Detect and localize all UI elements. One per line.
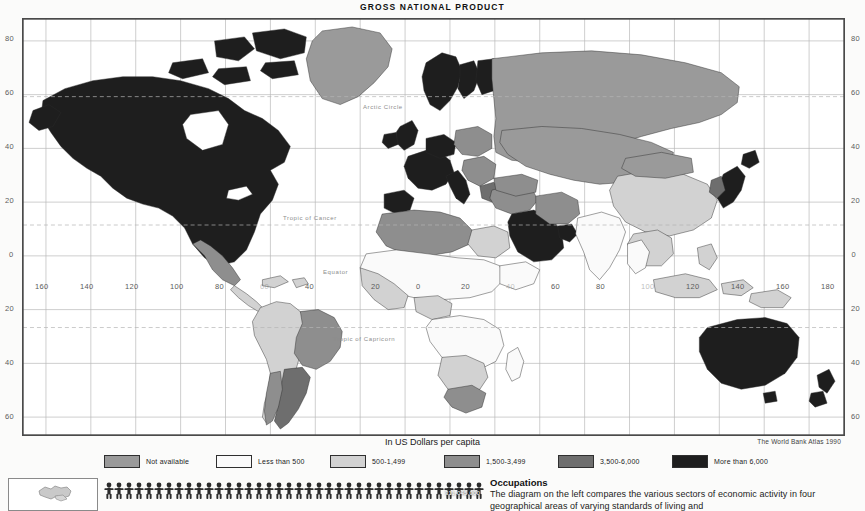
legend-item-less-than-500[interactable]: Less than 500 bbox=[216, 455, 305, 468]
legend-swatch-not-available bbox=[104, 455, 140, 468]
equator-label: Equator bbox=[323, 269, 348, 275]
lat-label-right-40s: 40 bbox=[851, 358, 860, 367]
lat-label-left-60n: 60 bbox=[5, 88, 14, 97]
lat-label-left-40s: 40 bbox=[5, 358, 14, 367]
lat-label-right-80n: 80 bbox=[851, 34, 860, 43]
lat-label-right-60s: 60 bbox=[851, 412, 860, 421]
lat-label-right-20n: 20 bbox=[851, 196, 860, 205]
legend-item-more-than-6000[interactable]: More than 6,000 bbox=[672, 455, 768, 468]
lon-label-100e: 100 bbox=[641, 282, 654, 291]
page-title: GROSS NATIONAL PRODUCT bbox=[0, 2, 865, 12]
pictogram-count-label: 311,045,000 bbox=[445, 490, 480, 496]
legend-item-not-available[interactable]: Not available bbox=[104, 455, 189, 468]
lat-label-left-20n: 20 bbox=[5, 196, 14, 205]
lat-label-right-0: 0 bbox=[852, 250, 856, 259]
legend-swatch-500-1499 bbox=[330, 455, 366, 468]
occupations-text-block: Occupations The diagram on the left comp… bbox=[490, 476, 862, 511]
lon-label-180: 180 bbox=[821, 282, 834, 291]
lon-label-60w: 60 bbox=[260, 282, 269, 291]
lat-label-left-20s: 20 bbox=[5, 304, 14, 313]
legend-item-500-1499[interactable]: 500-1,499 bbox=[330, 455, 405, 468]
lon-label-0: 0 bbox=[416, 282, 420, 291]
lon-label-40e: 40 bbox=[506, 282, 515, 291]
lon-label-160e: 160 bbox=[776, 282, 789, 291]
atlas-page: GROSS NATIONAL PRODUCT .ln{stroke:#b9b9b… bbox=[0, 0, 865, 511]
legend-label-500-1499: 500-1,499 bbox=[372, 458, 405, 465]
source-credit: The World Bank Atlas 1990 bbox=[757, 438, 841, 445]
bottom-panel: 311,045,000 Occupations The diagram on t… bbox=[0, 476, 865, 511]
legend-label-less-than-500: Less than 500 bbox=[258, 458, 305, 465]
lon-label-100w: 100 bbox=[170, 282, 183, 291]
inset-map-svg bbox=[9, 479, 98, 511]
tropic-of-cancer-label: Tropic of Cancer bbox=[283, 215, 337, 221]
units-caption: In US Dollars per capita bbox=[0, 437, 865, 447]
legend-item-1500-3499[interactable]: 1,500-3,499 bbox=[444, 455, 526, 468]
lat-label-right-20s: 20 bbox=[851, 304, 860, 313]
legend-swatch-less-than-500 bbox=[216, 455, 252, 468]
occupations-heading: Occupations bbox=[490, 476, 862, 489]
world-map-svg: .ln{stroke:#b9b9b9;stroke-width:.7;fill:… bbox=[23, 19, 844, 435]
lon-label-160w: 160 bbox=[35, 282, 48, 291]
legend-swatch-more-than-6000 bbox=[672, 455, 708, 468]
lat-label-left-80n: 80 bbox=[5, 34, 14, 43]
legend-label-not-available: Not available bbox=[146, 458, 189, 465]
legend-swatch-3500-6000 bbox=[558, 455, 594, 468]
world-map[interactable]: .ln{stroke:#b9b9b9;stroke-width:.7;fill:… bbox=[22, 18, 845, 436]
pictogram-people-row-render bbox=[104, 482, 484, 499]
legend-item-3500-6000[interactable]: 3,500-6,000 bbox=[558, 455, 640, 468]
tropic-of-capricorn-label: Tropic of Capricorn bbox=[333, 336, 395, 342]
legend-swatch-1500-3499 bbox=[444, 455, 480, 468]
lon-label-20e: 20 bbox=[461, 282, 470, 291]
lon-label-120e: 120 bbox=[686, 282, 699, 291]
lon-label-80e: 80 bbox=[596, 282, 605, 291]
legend-label-1500-3499: 1,500-3,499 bbox=[486, 458, 526, 465]
lat-label-left-40n: 40 bbox=[5, 142, 14, 151]
inset-region-map[interactable] bbox=[8, 478, 98, 511]
lon-label-40w: 40 bbox=[305, 282, 314, 291]
lon-label-60e: 60 bbox=[551, 282, 560, 291]
lat-label-left-60s: 60 bbox=[5, 412, 14, 421]
lat-label-right-60n: 60 bbox=[851, 88, 860, 97]
legend-label-3500-6000: 3,500-6,000 bbox=[600, 458, 640, 465]
map-legend: Not available Less than 500 500-1,499 1,… bbox=[0, 451, 865, 471]
lon-label-140w: 140 bbox=[80, 282, 93, 291]
lat-label-right-40n: 40 bbox=[851, 142, 860, 151]
legend-label-more-than-6000: More than 6,000 bbox=[714, 458, 768, 465]
lon-label-20w: 20 bbox=[371, 282, 380, 291]
lon-label-140e: 140 bbox=[731, 282, 744, 291]
arctic-circle-label: Arctic Circle bbox=[363, 104, 403, 110]
lat-label-left-0: 0 bbox=[9, 250, 13, 259]
lon-label-120w: 120 bbox=[125, 282, 138, 291]
lon-label-80w: 80 bbox=[215, 282, 224, 291]
occupations-pictogram[interactable]: 311,045,000 bbox=[104, 478, 484, 511]
occupations-description: The diagram on the left compares the var… bbox=[490, 489, 862, 511]
